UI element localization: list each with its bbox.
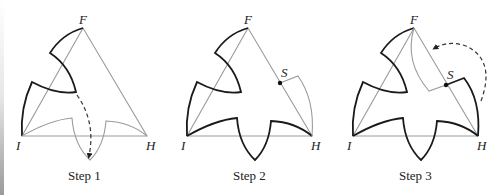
rotation-arrow [435, 43, 486, 101]
vertex-f-label: F [78, 12, 88, 27]
point-s-label: S [447, 67, 454, 82]
vertex-i-label: I [15, 138, 21, 153]
step-2-caption: Step 2 [233, 168, 266, 183]
triangle-fih [187, 28, 312, 136]
step2-bottom-curve [187, 118, 312, 160]
tessellation-steps-diagram: F I H Step 1 F S I H Step 2 F S I H Step… [0, 0, 501, 195]
point-s [444, 83, 448, 87]
step-3-caption: Step 3 [399, 168, 432, 183]
triangle-fih [22, 28, 147, 136]
vertex-h-label: H [476, 138, 487, 153]
step-2-panel: F S I H Step 2 [180, 12, 321, 183]
rotation-arrow [77, 95, 91, 156]
step-3-panel: F S I H Step 3 [346, 12, 487, 183]
point-s [278, 81, 282, 85]
vertex-h-label: H [145, 138, 156, 153]
step1-bottom-copy [22, 118, 147, 160]
step-1-panel: F I H Step 1 [15, 12, 156, 183]
step3-top-copy [411, 28, 446, 91]
vertex-h-label: H [310, 138, 321, 153]
vertex-f-label: F [409, 12, 419, 27]
vertex-i-label: I [346, 138, 352, 153]
vertex-i-label: I [180, 138, 186, 153]
point-s-label: S [281, 65, 288, 80]
vertex-f-label: F [243, 12, 253, 27]
step-1-caption: Step 1 [68, 168, 101, 183]
step3-bottom-curve [353, 118, 478, 160]
